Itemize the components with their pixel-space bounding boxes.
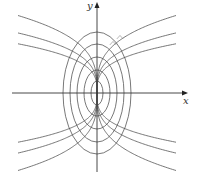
trajectory-curve (18, 93, 97, 142)
trajectory-curve (18, 44, 97, 93)
trajectory-curve (97, 16, 176, 94)
trajectory-curve (18, 16, 97, 94)
trajectory-curve (97, 93, 176, 171)
y-axis-label: y (86, 0, 93, 11)
trajectory-curve (97, 44, 176, 93)
orthogonal-trajectories-diagram: x y (0, 0, 201, 172)
x-axis-label: x (183, 95, 189, 106)
trajectory-curve (97, 93, 176, 142)
y-axis-arrow-icon (95, 2, 100, 8)
axes: x y (12, 0, 189, 172)
trajectory-curve (18, 93, 97, 171)
